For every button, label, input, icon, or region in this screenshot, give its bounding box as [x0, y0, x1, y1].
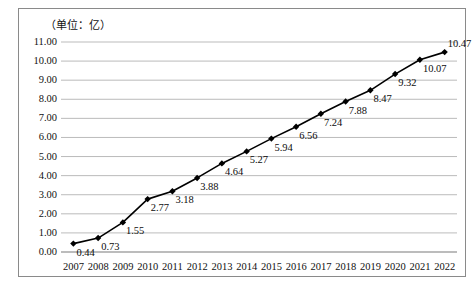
data-point-label: 10.47: [448, 38, 472, 49]
x-axis-tick-label: 2008: [88, 261, 109, 272]
data-point-label: 7.24: [324, 117, 342, 128]
data-point-label: 3.88: [200, 181, 218, 192]
x-axis-tick-label: 2015: [261, 261, 282, 272]
y-axis-tick-label: 1.00: [13, 227, 57, 238]
y-axis-tick-label: 7.00: [13, 112, 57, 123]
data-point-label: 5.27: [250, 154, 268, 165]
data-point-label: 6.56: [299, 130, 317, 141]
x-axis-tick-label: 2009: [112, 261, 133, 272]
data-point-label: 9.32: [398, 77, 416, 88]
x-axis-tick-label: 2022: [434, 261, 455, 272]
series-line: [73, 52, 444, 243]
data-point-label: 0.44: [76, 247, 94, 258]
x-axis-tick-label: 2014: [236, 261, 257, 272]
x-axis-tick-label: 2007: [63, 261, 84, 272]
x-axis-tick-label: 2018: [335, 261, 356, 272]
chart-plot-area: 11.0010.009.008.007.006.005.004.003.002.…: [19, 9, 465, 276]
data-point-label: 2.77: [151, 202, 169, 213]
x-axis-tick-label: 2013: [211, 261, 232, 272]
y-axis-tick-label: 11.00: [13, 36, 57, 47]
x-axis-tick-label: 2021: [409, 261, 430, 272]
y-axis-tick-label: 6.00: [13, 131, 57, 142]
data-point-label: 3.18: [175, 194, 193, 205]
data-point-label: 0.73: [101, 241, 119, 252]
x-axis-tick-label: 2020: [385, 261, 406, 272]
y-axis-tick-label: 9.00: [13, 74, 57, 85]
data-point-label: 7.88: [349, 105, 367, 116]
line-chart-svg: [19, 9, 465, 276]
data-point-label: 10.07: [423, 63, 447, 74]
y-axis-tick-label: 2.00: [13, 208, 57, 219]
y-axis-tick-label: 4.00: [13, 170, 57, 181]
y-axis-tick-label: 3.00: [13, 189, 57, 200]
x-axis-tick-label: 2016: [286, 261, 307, 272]
y-axis-tick-label: 10.00: [13, 55, 57, 66]
x-axis-tick-label: 2011: [162, 261, 183, 272]
x-axis-tick-label: 2019: [360, 261, 381, 272]
x-axis-tick-label: 2017: [310, 261, 331, 272]
y-axis-tick-label: 8.00: [13, 93, 57, 104]
data-point-label: 5.94: [274, 142, 292, 153]
data-point-label: 1.55: [126, 225, 144, 236]
y-axis-tick-label: 5.00: [13, 151, 57, 162]
data-point-marker: [441, 49, 447, 55]
x-axis-tick-label: 2010: [137, 261, 158, 272]
data-point-label: 4.64: [225, 166, 243, 177]
y-axis-tick-label: 0.00: [13, 246, 57, 257]
data-point-label: 8.47: [373, 93, 391, 104]
x-axis-tick-label: 2012: [187, 261, 208, 272]
chart-figure: （单位：亿） 11.0010.009.008.007.006.005.004.0…: [18, 8, 466, 277]
